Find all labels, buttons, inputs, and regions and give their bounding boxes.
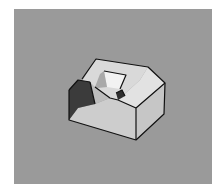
3d-block-render [0, 0, 224, 193]
